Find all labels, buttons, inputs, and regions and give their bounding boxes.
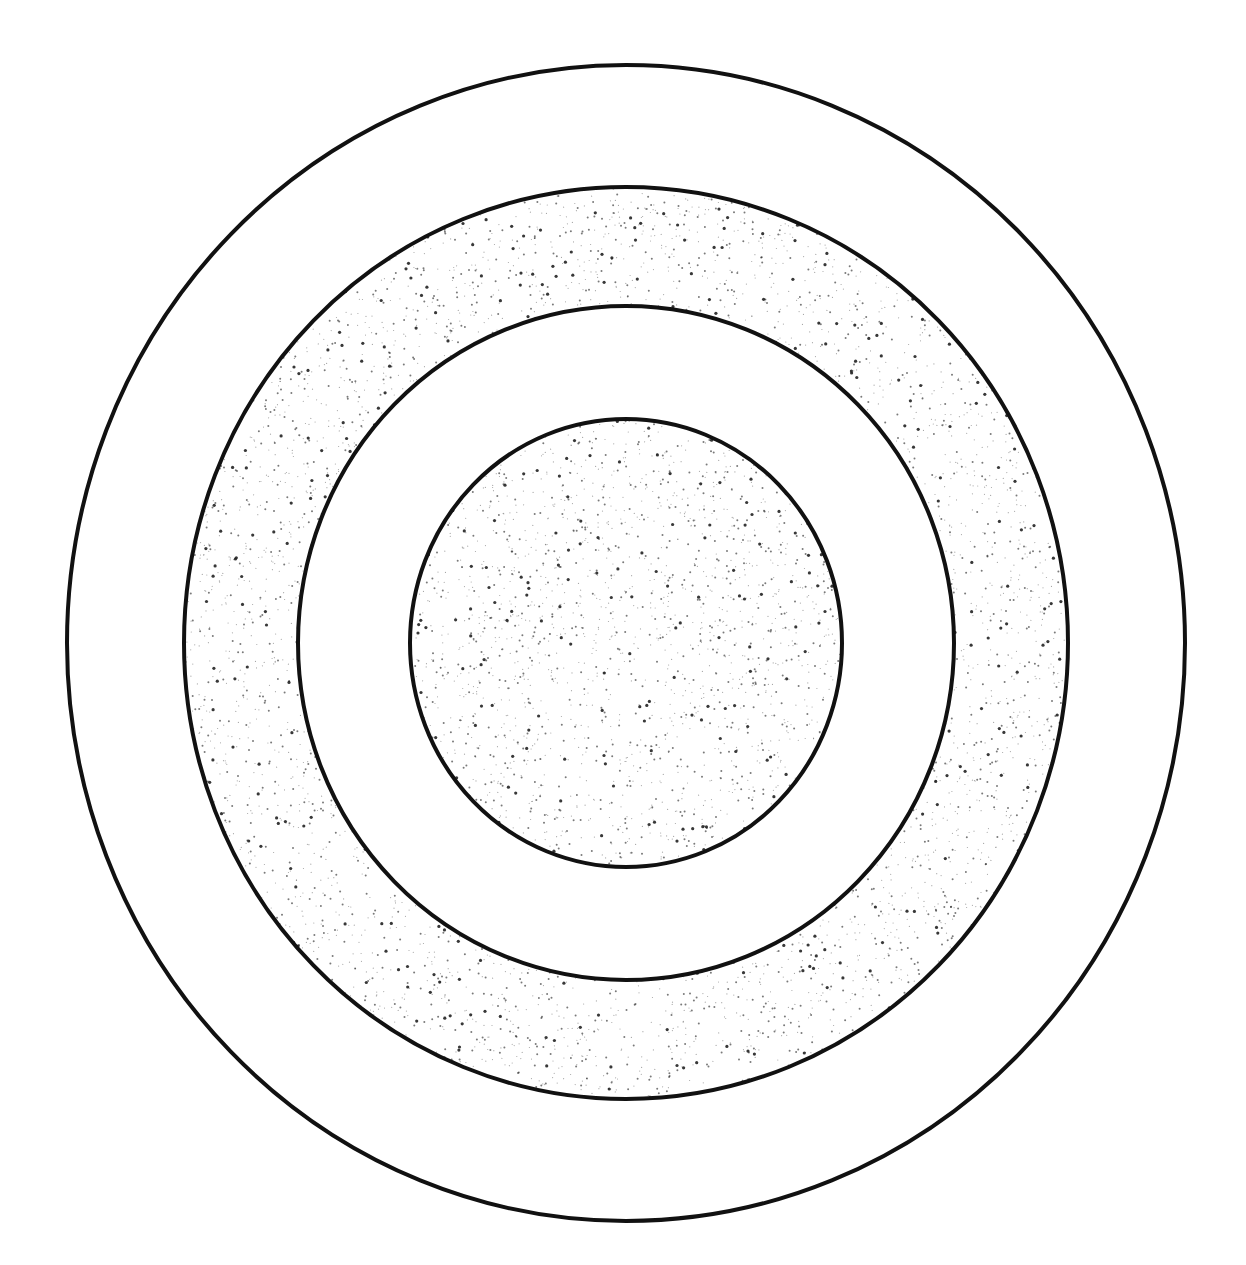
concentric-circles-diagram	[0, 0, 1246, 1265]
background	[0, 0, 1246, 1265]
